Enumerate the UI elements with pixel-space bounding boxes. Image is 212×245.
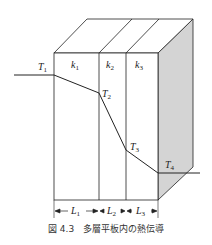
label-L3: L3 — [135, 205, 146, 218]
wall-front-face — [54, 53, 158, 200]
multilayer-wall-diagram: T1 T2 T3 T4 k1 k2 k3 L1 L2 L3 図 4.3 多層平板… — [0, 0, 212, 245]
label-T1: T1 — [38, 61, 48, 74]
label-L2: L2 — [106, 205, 117, 218]
figure-caption: 図 4.3 多層平板内の熱伝導 — [48, 223, 164, 234]
label-L1: L1 — [70, 205, 81, 218]
